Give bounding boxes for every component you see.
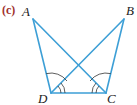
segment-AC [33, 19, 106, 93]
segment-BC [106, 19, 124, 93]
angle-mark-ACD-2 [92, 83, 96, 93]
vertex-label-B: B [126, 3, 134, 19]
geometry-figure: (c) A B D C [0, 0, 137, 105]
figure-canvas [0, 0, 137, 105]
segment-AD [33, 19, 51, 93]
angle-mark-ACD-1 [96, 86, 99, 93]
part-label: (c) [2, 3, 15, 18]
segments [33, 19, 124, 93]
vertex-label-A: A [22, 4, 30, 20]
angle-mark-BDC-1 [58, 86, 61, 93]
vertex-label-C: C [107, 91, 116, 105]
vertex-label-D: D [38, 91, 47, 105]
angle-marks [46, 73, 110, 93]
segment-BD [51, 19, 124, 93]
angle-mark-BDC-2 [61, 83, 65, 93]
